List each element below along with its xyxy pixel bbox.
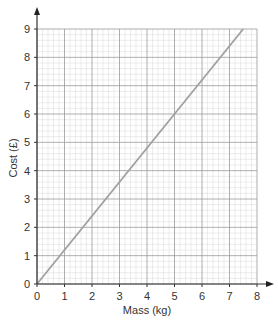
x-axis-title: Mass (kg) xyxy=(123,304,171,316)
data-series xyxy=(37,29,243,284)
y-axis-title: Cost (£) xyxy=(7,138,19,177)
x-tick-label: 2 xyxy=(89,290,95,302)
x-tick-label: 7 xyxy=(226,290,232,302)
y-tick-label: 8 xyxy=(24,51,30,63)
y-tick-label: 6 xyxy=(24,108,30,120)
x-tick-labels: 012345678 xyxy=(34,284,260,302)
x-tick-label: 5 xyxy=(171,290,177,302)
x-tick-label: 4 xyxy=(144,290,150,302)
x-tick-label: 8 xyxy=(254,290,260,302)
y-tick-labels: 0123456789 xyxy=(24,23,37,290)
y-tick-label: 4 xyxy=(24,165,30,177)
x-tick-label: 0 xyxy=(34,290,40,302)
y-axis-arrow-icon xyxy=(34,7,40,15)
cost-vs-mass-chart: 012345678 0123456789 Mass (kg) Cost (£) xyxy=(0,0,278,322)
x-tick-label: 1 xyxy=(61,290,67,302)
y-tick-label: 9 xyxy=(24,23,30,35)
y-tick-label: 3 xyxy=(24,193,30,205)
x-tick-label: 3 xyxy=(116,290,122,302)
y-tick-label: 0 xyxy=(24,278,30,290)
y-tick-label: 7 xyxy=(24,80,30,92)
y-tick-label: 2 xyxy=(24,221,30,233)
y-tick-label: 1 xyxy=(24,250,30,262)
x-tick-label: 6 xyxy=(199,290,205,302)
y-tick-label: 5 xyxy=(24,136,30,148)
cost-line xyxy=(37,29,243,284)
x-axis-arrow-icon xyxy=(266,281,274,287)
